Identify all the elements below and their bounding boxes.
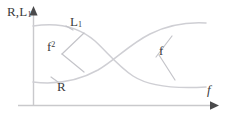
leader-left-upper [62, 33, 84, 54]
curve-label-r: R [57, 80, 66, 93]
axes-group [18, 6, 219, 110]
annotation-left-region: f2 [47, 40, 55, 53]
diagram-svg [0, 0, 228, 119]
y-axis-label-main: R,L [7, 4, 27, 19]
annotation-right-region: f [159, 44, 163, 57]
curve-label-l1-main: L [70, 14, 78, 29]
curve-r [33, 23, 206, 83]
y-axis-label-subscript: 1 [27, 10, 31, 19]
figure-canvas: R,L1 f L1 R f2 f [0, 0, 228, 119]
curve-label-l1-subscript: 1 [78, 20, 82, 29]
curves-group [33, 23, 206, 88]
x-axis-arrowhead [210, 101, 219, 110]
leader-right-lower [159, 55, 175, 80]
curve-label-l1: L1 [70, 15, 82, 30]
leader-left-lower [62, 54, 84, 72]
annotation-left-superscript: 2 [51, 40, 55, 49]
y-axis-label: R,L1 [7, 5, 32, 20]
x-axis-label: f [207, 83, 211, 96]
